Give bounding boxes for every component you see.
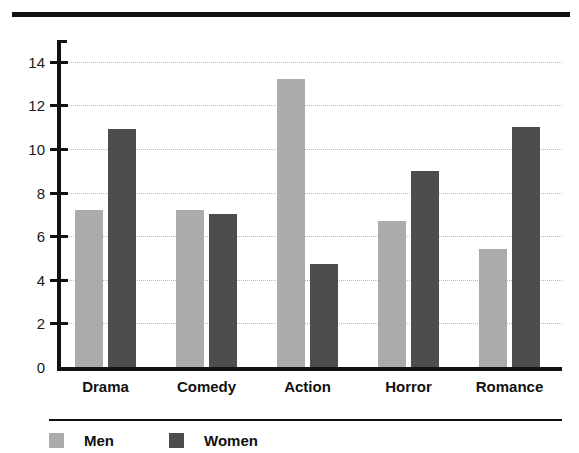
y-tick-mark-6 (50, 235, 68, 238)
gridline-6 (61, 236, 562, 237)
y-tick-label-8: 8 (37, 184, 45, 201)
y-tick-label-6: 6 (37, 228, 45, 245)
y-axis-line (57, 40, 61, 371)
legend-divider (49, 419, 562, 421)
x-axis-label-action: Action (284, 378, 331, 395)
bar-horror-men (378, 221, 406, 369)
legend-label-women: Women (204, 432, 258, 449)
y-tick-mark-8 (50, 192, 68, 195)
y-axis-top-cap (57, 40, 67, 43)
y-tick-mark-14 (50, 61, 68, 64)
y-tick-label-12: 12 (28, 97, 45, 114)
x-axis-label-comedy: Comedy (177, 378, 236, 395)
bar-chart-figure: 02468101214 DramaComedyActionHorrorRoman… (0, 0, 579, 453)
bar-horror-women (411, 171, 439, 369)
y-tick-mark-4 (50, 279, 68, 282)
gridline-8 (61, 193, 562, 194)
y-tick-label-2: 2 (37, 315, 45, 332)
x-axis-label-drama: Drama (82, 378, 129, 395)
y-tick-label-14: 14 (28, 53, 45, 70)
y-tick-label-10: 10 (28, 141, 45, 158)
y-tick-label-4: 4 (37, 271, 45, 288)
plot-area: 02468101214 (57, 40, 562, 371)
bar-romance-women (512, 127, 540, 369)
legend-entry-men[interactable]: Men (49, 431, 114, 449)
legend-swatch-men (49, 433, 64, 448)
y-tick-mark-12 (50, 104, 68, 107)
bar-drama-women (108, 129, 136, 369)
y-tick-mark-10 (50, 148, 68, 151)
x-axis-label-romance: Romance (476, 378, 544, 395)
y-tick-label-0: 0 (37, 359, 45, 376)
bar-comedy-women (209, 214, 237, 369)
top-rule-divider (12, 12, 570, 17)
bar-romance-men (479, 249, 507, 369)
gridline-12 (61, 105, 562, 106)
bar-drama-men (75, 210, 103, 369)
bar-action-men (277, 79, 305, 369)
y-tick-mark-2 (50, 322, 68, 325)
legend-swatch-women (169, 433, 184, 448)
bar-action-women (310, 264, 338, 369)
gridline-14 (61, 62, 562, 63)
gridline-10 (61, 149, 562, 150)
bar-comedy-men (176, 210, 204, 369)
legend-entry-women[interactable]: Women (169, 431, 258, 449)
x-axis-line (57, 367, 562, 371)
x-axis-label-horror: Horror (385, 378, 432, 395)
legend-label-men: Men (84, 432, 114, 449)
